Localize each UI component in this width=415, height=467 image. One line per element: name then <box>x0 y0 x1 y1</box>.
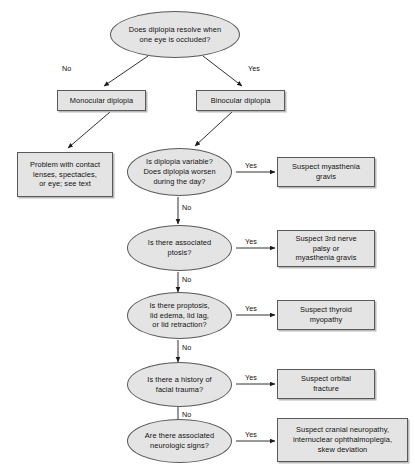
node-binocular-diplopia-label: Binocular diplopia <box>208 96 274 106</box>
node-monocular-diplopia-label: Monocular diplopia <box>67 96 136 106</box>
node-monocular-diplopia: Monocular diplopia <box>57 90 146 111</box>
node-ptosis-question: Is there associated ptosis? <box>127 225 232 271</box>
edge-monocular-problem <box>68 112 110 148</box>
node-suspect-myasthenia-gravis: Suspect myasthenia gravis <box>277 157 375 187</box>
node-suspect-cranial-neuropathy: Suspect cranial neuropathy, internuclear… <box>277 418 408 462</box>
edge-label-trauma-yes: Yes <box>245 373 257 382</box>
node-facial-trauma-question: Is there a history of facial trauma? <box>127 362 232 407</box>
edge-label-variable-yes: Yes <box>245 161 257 170</box>
edge-label-proptosis-no: No <box>182 343 191 352</box>
node-suspect-orbital-fracture: Suspect orbital fracture <box>277 369 375 399</box>
edge-binocular-variable <box>195 112 232 146</box>
edge-label-trauma-no: No <box>182 410 191 419</box>
node-suspect-orbital-fracture-label: Suspect orbital fracture <box>298 374 354 394</box>
node-contact-lens-problem-label: Problem with contact lenses, spectacles,… <box>27 160 103 189</box>
edge-label-root-no: No <box>62 64 71 73</box>
node-diplopia-variable-question: Is diplopia variable? Does diplopia wors… <box>127 148 232 196</box>
edge-root-no <box>104 56 148 86</box>
edge-label-ptosis-no: No <box>182 275 191 284</box>
node-proptosis-question: Is there proptosis, lid edema, lid lag, … <box>127 292 232 339</box>
node-suspect-third-nerve-palsy: Suspect 3rd nerve palsy or myasthenia gr… <box>277 230 375 267</box>
edge-label-root-yes: Yes <box>248 64 260 73</box>
edge-label-variable-no: No <box>182 203 191 212</box>
node-neurologic-signs-question-label: Are there associated neurologic signs? <box>142 431 217 451</box>
diplopia-flowchart: Does diplopia resolve when one eye is oc… <box>0 0 415 467</box>
node-ptosis-question-label: Is there associated ptosis? <box>145 238 214 258</box>
node-diplopia-variable-question-label: Is diplopia variable? Does diplopia wors… <box>140 157 218 186</box>
edge-label-proptosis-yes: Yes <box>245 304 257 313</box>
node-neurologic-signs-question: Are there associated neurologic signs? <box>127 419 232 463</box>
node-suspect-thyroid-myopathy-label: Suspect thyroid myopathy <box>297 305 355 325</box>
node-suspect-cranial-neuropathy-label: Suspect cranial neuropathy, internuclear… <box>290 425 395 454</box>
node-root-question-label: Does diplopia resolve when one eye is oc… <box>126 25 224 45</box>
node-root-question: Does diplopia resolve when one eye is oc… <box>110 11 240 58</box>
node-contact-lens-problem: Problem with contact lenses, spectacles,… <box>17 152 113 197</box>
node-suspect-myasthenia-gravis-label: Suspect myasthenia gravis <box>289 162 363 182</box>
node-suspect-thyroid-myopathy: Suspect thyroid myopathy <box>277 300 375 330</box>
edge-label-neuro-yes: Yes <box>245 430 257 439</box>
edge-root-yes <box>203 56 242 86</box>
node-suspect-third-nerve-palsy-label: Suspect 3rd nerve palsy or myasthenia gr… <box>292 234 359 263</box>
edge-label-ptosis-yes: Yes <box>245 237 257 246</box>
node-facial-trauma-question-label: Is there a history of facial trauma? <box>144 375 214 395</box>
node-proptosis-question-label: Is there proptosis, lid edema, lid lag, … <box>146 301 212 330</box>
node-binocular-diplopia: Binocular diplopia <box>196 90 285 111</box>
